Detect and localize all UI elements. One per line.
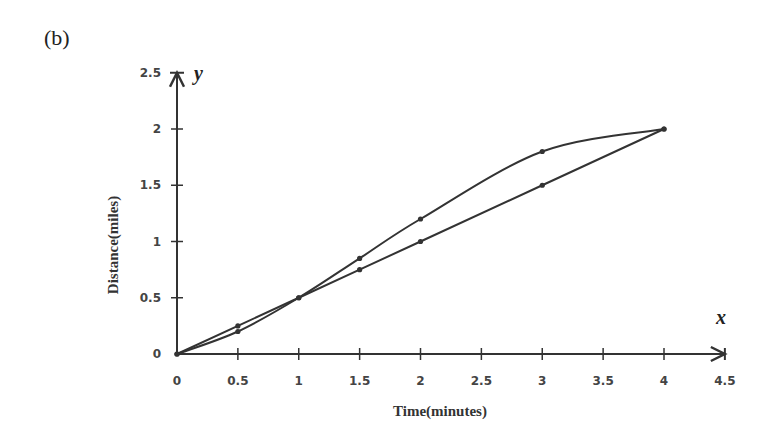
data-point-marker [418,216,423,221]
data-point-marker [174,351,179,356]
distance-time-chart: 00.511.522.533.544.500.511.522.5 Time(mi… [0,0,771,438]
x-tick-label: 1 [295,374,303,388]
x-tick-label: 3 [538,374,546,388]
axis-labels: Time(minutes) Distance(miles) x y [105,62,726,420]
data-point-marker [296,295,301,300]
x-tick-label: 4 [660,374,668,388]
x-tick-label: 2.5 [471,374,492,388]
data-point-marker [357,267,362,272]
y-axis-variable: y [192,62,203,85]
x-tick-label: 4.5 [714,374,735,388]
data-point-marker [357,256,362,261]
x-tick-label: 2 [416,374,424,388]
y-axis-title: Distance(miles) [105,196,122,294]
data-point-marker [418,239,423,244]
y-tick-label: 2 [153,122,161,136]
x-tick-label: 0.5 [227,374,248,388]
y-tick-label: 1 [153,235,161,249]
x-tick-label: 0 [173,374,181,388]
data-point-marker [235,329,240,334]
axes: 00.511.522.533.544.500.511.522.5 [140,66,736,388]
data-point-marker [235,323,240,328]
data-point-marker [540,183,545,188]
y-tick-label: 0 [153,347,161,361]
x-tick-label: 1.5 [349,374,370,388]
data-point-marker [661,126,666,131]
y-tick-label: 0.5 [140,291,161,305]
y-tick-label: 1.5 [140,178,161,192]
x-axis-variable: x [715,306,726,328]
y-tick-label: 2.5 [140,66,161,80]
series-group [174,126,666,356]
x-tick-label: 3.5 [592,374,613,388]
data-point-marker [540,149,545,154]
x-axis-title: Time(minutes) [393,403,487,420]
